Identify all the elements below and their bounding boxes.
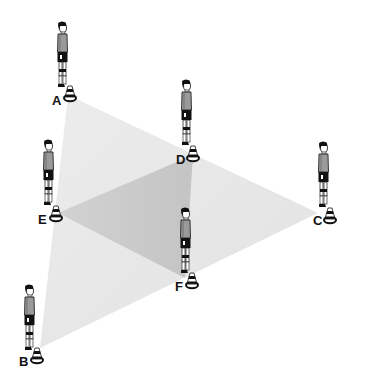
player-figure-c [319, 142, 329, 208]
cone-icon-a [64, 86, 76, 101]
player-figure-e [44, 140, 54, 206]
player-figure-a [58, 22, 68, 88]
position-label-c: C [313, 214, 322, 227]
position-label-a: A [52, 94, 61, 107]
cone-icon-c [324, 208, 336, 223]
field-shapes [0, 0, 365, 385]
drill-diagram: ADCEFB [0, 0, 365, 385]
position-label-b: B [19, 355, 28, 368]
player-figure-b [25, 285, 35, 351]
position-label-e: E [38, 213, 47, 226]
position-label-d: D [176, 153, 185, 166]
player-figure-d [182, 80, 192, 146]
cone-icon-b [31, 348, 43, 363]
position-label-f: F [175, 280, 183, 293]
cone-icon-d [187, 146, 199, 161]
